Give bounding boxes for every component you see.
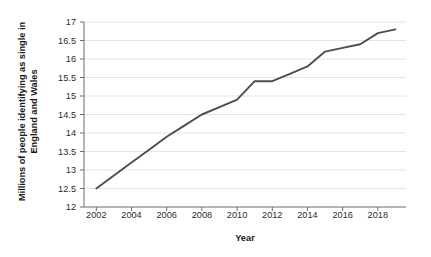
y-tick-label: 14 <box>44 128 80 138</box>
y-axis-tick-labels: 1212.51313.51414.51515.51616.517 <box>44 0 80 257</box>
y-tick-label: 17 <box>44 17 80 27</box>
line-chart-figure: Millions of people identifying as single… <box>0 0 431 257</box>
x-tick-label: 2002 <box>86 210 106 220</box>
x-axis-title: Year <box>84 233 406 243</box>
y-tick-label: 14.5 <box>44 110 80 120</box>
y-tick-label: 12.5 <box>44 184 80 194</box>
y-tick-label: 16 <box>44 54 80 64</box>
y-axis-title-line2: England and Wales <box>29 21 41 200</box>
y-tick-label: 15 <box>44 91 80 101</box>
x-tick-label: 2018 <box>368 210 388 220</box>
x-tick-label: 2010 <box>227 210 247 220</box>
x-tick-label: 2004 <box>121 210 141 220</box>
x-tick-label: 2008 <box>192 210 212 220</box>
y-tick-label: 15.5 <box>44 73 80 83</box>
y-axis-title-line1: Millions of people identifying as single… <box>18 21 30 200</box>
y-tick-label: 13.5 <box>44 147 80 157</box>
y-tick-label: 12 <box>44 202 80 212</box>
y-tick-label: 13 <box>44 165 80 175</box>
x-tick-label: 2016 <box>332 210 352 220</box>
x-tick-label: 2012 <box>262 210 282 220</box>
gridlines <box>84 22 406 189</box>
y-tick-label: 16.5 <box>44 36 80 46</box>
data-series-line <box>96 29 395 188</box>
x-tick-label: 2006 <box>156 210 176 220</box>
x-tick-label: 2014 <box>297 210 317 220</box>
y-axis-tick-marks <box>80 22 84 207</box>
